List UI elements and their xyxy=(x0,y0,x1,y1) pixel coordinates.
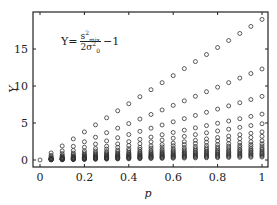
data-point xyxy=(205,110,209,114)
data-point xyxy=(138,137,142,141)
data-point xyxy=(71,144,75,148)
formula-tail: −1 xyxy=(103,35,119,48)
data-point xyxy=(238,133,242,137)
data-point xyxy=(105,116,109,120)
data-point xyxy=(116,126,120,130)
data-point xyxy=(238,117,242,121)
y-tick-label: 0 xyxy=(21,154,28,167)
data-point xyxy=(249,98,253,102)
data-point xyxy=(216,121,220,125)
data-point xyxy=(227,81,231,85)
data-point xyxy=(105,131,109,135)
denominator-symbol: 2σ xyxy=(80,42,92,52)
data-point xyxy=(193,60,197,64)
data-point xyxy=(127,122,131,126)
data-point xyxy=(160,81,164,85)
data-point xyxy=(60,144,64,148)
data-point xyxy=(127,140,131,144)
data-point xyxy=(160,138,164,142)
data-point xyxy=(127,102,131,106)
formula-lhs: Y xyxy=(61,35,68,48)
x-tick-label: 0 xyxy=(37,171,44,184)
data-point xyxy=(94,135,98,139)
data-point xyxy=(238,76,242,80)
data-point xyxy=(182,99,186,103)
formula-fraction: s2mix 2σ20 xyxy=(79,31,101,52)
data-point xyxy=(238,137,242,141)
data-point xyxy=(182,128,186,132)
data-point xyxy=(149,135,153,139)
data-point xyxy=(116,136,120,140)
data-point xyxy=(71,137,75,141)
data-point xyxy=(249,124,253,128)
data-point xyxy=(171,136,175,140)
data-point xyxy=(149,140,153,144)
data-point xyxy=(238,101,242,105)
data-point xyxy=(82,130,86,134)
data-point xyxy=(205,90,209,94)
x-tick-label: 0.6 xyxy=(164,171,182,184)
data-point xyxy=(216,107,220,111)
formula-denominator: 2σ20 xyxy=(79,42,101,52)
data-point xyxy=(260,17,264,21)
data-point xyxy=(205,53,209,57)
data-point xyxy=(227,119,231,123)
formula-numerator: s2mix xyxy=(80,31,101,42)
data-point xyxy=(160,123,164,127)
data-point xyxy=(149,112,153,116)
data-point xyxy=(260,130,264,134)
data-point xyxy=(138,129,142,133)
x-tick-label: 0.4 xyxy=(120,171,138,184)
data-point xyxy=(260,134,264,138)
data-point xyxy=(193,126,197,130)
data-point xyxy=(149,126,153,130)
data-point xyxy=(182,117,186,121)
formula-equals: = xyxy=(68,35,77,48)
data-point xyxy=(249,131,253,135)
data-point xyxy=(127,133,131,137)
data-point xyxy=(105,139,109,143)
data-point xyxy=(260,94,264,98)
data-point xyxy=(182,67,186,71)
data-point xyxy=(171,130,175,134)
x-tick-label: 0.8 xyxy=(209,171,227,184)
data-point xyxy=(205,131,209,135)
data-point xyxy=(160,133,164,137)
data-point xyxy=(260,67,264,71)
x-tick-label: 1 xyxy=(259,171,266,184)
data-point xyxy=(238,125,242,129)
data-point xyxy=(260,122,264,126)
scatter-chart: 00.20.40.60.81 051015 p Y xyxy=(0,0,277,205)
formula-annotation: Y = s2mix 2σ20 −1 xyxy=(61,31,119,52)
data-point xyxy=(216,46,220,50)
data-point xyxy=(249,72,253,76)
data-point xyxy=(238,31,242,35)
x-axis-label: p xyxy=(144,187,151,200)
data-point xyxy=(249,24,253,28)
data-point xyxy=(227,38,231,42)
data-point xyxy=(171,103,175,107)
data-point xyxy=(116,109,120,113)
x-tick-label: 0.2 xyxy=(76,171,94,184)
data-point xyxy=(193,113,197,117)
data-point xyxy=(138,95,142,99)
data-point xyxy=(193,133,197,137)
data-point xyxy=(216,129,220,133)
data-point xyxy=(171,120,175,124)
data-point xyxy=(160,108,164,112)
data-point xyxy=(182,134,186,138)
denominator-sub: 0 xyxy=(96,47,100,54)
data-point xyxy=(82,140,86,144)
data-point xyxy=(227,104,231,108)
y-tick-label: 15 xyxy=(14,43,28,56)
data-point xyxy=(249,114,253,118)
data-point xyxy=(38,158,42,162)
data-point xyxy=(138,117,142,121)
data-point xyxy=(260,112,264,116)
y-tick-label: 5 xyxy=(21,117,28,130)
data-point xyxy=(205,124,209,128)
data-point xyxy=(171,74,175,78)
data-point xyxy=(94,123,98,127)
data-point xyxy=(227,127,231,131)
data-point xyxy=(193,94,197,98)
